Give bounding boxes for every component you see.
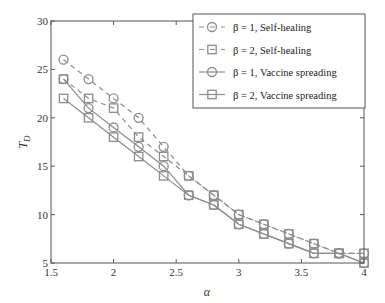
y-axis-label-sub: D xyxy=(22,135,32,143)
x-tick-label: 2 xyxy=(111,266,117,278)
legend: β = 1, Self-healingβ = 2, Self-healingβ … xyxy=(193,14,365,108)
circle-marker xyxy=(159,142,168,151)
x-tick-label: 2.5 xyxy=(169,266,183,278)
legend-item: β = 2, Self-healing xyxy=(199,45,312,56)
svg-text:TD: TD xyxy=(16,135,32,149)
y-tick-label: 30 xyxy=(37,15,49,27)
series-4 xyxy=(59,94,368,267)
y-tick-label: 5 xyxy=(43,257,49,269)
y-tick-label: 10 xyxy=(37,209,49,221)
y-axis-label: TD xyxy=(16,135,32,149)
legend-label: β = 1, Vaccine spreading xyxy=(233,67,337,78)
y-tick-label: 20 xyxy=(37,112,49,124)
x-tick-label: 3.5 xyxy=(295,266,309,278)
x-tick-label: 3 xyxy=(236,266,242,278)
legend-label: β = 2, Vaccine spreading xyxy=(233,90,337,101)
x-axis-label: α xyxy=(204,285,211,299)
legend-label: β = 2, Self-healing xyxy=(233,45,312,56)
x-tick-label: 4 xyxy=(361,266,367,278)
y-tick-label: 15 xyxy=(37,160,49,172)
legend-label: β = 1, Self-healing xyxy=(233,22,312,33)
y-tick-label: 25 xyxy=(37,63,49,75)
line-chart: 1.522.533.5451015202530 β = 1, Self-heal… xyxy=(0,0,385,303)
